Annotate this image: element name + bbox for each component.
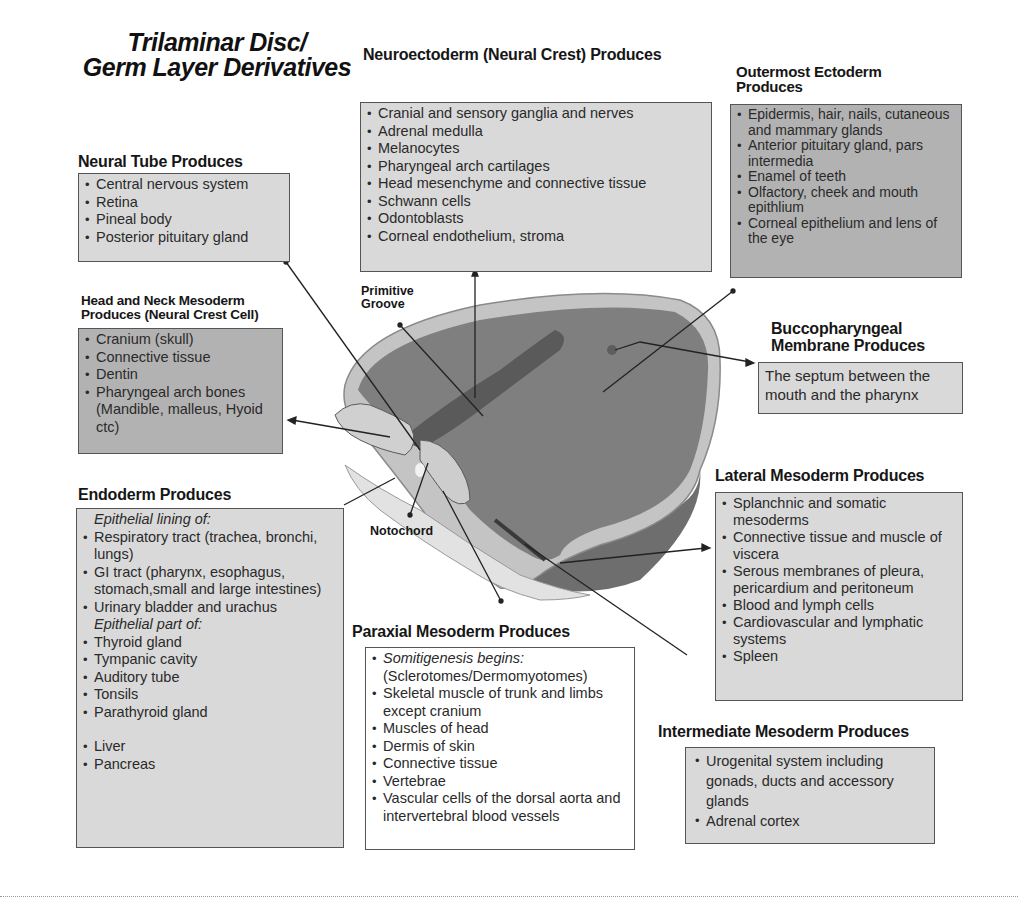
list-item: Connective tissue bbox=[371, 755, 630, 773]
list-item: Auditory tube bbox=[82, 669, 339, 687]
intermediate-mesoderm-box: Urogenital system including gonads, duct… bbox=[685, 747, 935, 844]
endoderm-box: Epithelial lining of: Respiratory tract … bbox=[76, 508, 344, 848]
list-item: Somitigenesis begins: (Sclerotomes/Dermo… bbox=[371, 650, 630, 685]
list-item: Tonsils bbox=[82, 686, 339, 704]
buccopharyngeal-heading-line2: Membrane Produces bbox=[771, 337, 925, 354]
list-item: Pineal body bbox=[84, 211, 285, 229]
endoderm-subheading-part: Epithelial part of: bbox=[82, 616, 339, 634]
buccopharyngeal-heading: Buccopharyngeal Membrane Produces bbox=[771, 320, 925, 354]
list-item: Retina bbox=[84, 194, 285, 212]
list-item: Central nervous system bbox=[84, 176, 285, 194]
outermost-ectoderm-box: Epidermis, hair, nails, cutaneous and ma… bbox=[730, 104, 962, 278]
endoderm-heading: Endoderm Produces bbox=[78, 486, 231, 503]
list-item: Urogenital system including gonads, duct… bbox=[694, 751, 926, 811]
list-item: Tympanic cavity bbox=[82, 651, 339, 669]
buccopharyngeal-box: The septum between the mouth and the pha… bbox=[758, 362, 963, 414]
list-item: Pharyngeal arch cartilages bbox=[366, 158, 707, 176]
list-item: Epidermis, hair, nails, cutaneous and ma… bbox=[736, 107, 959, 138]
neural-tube-box: Central nervous system Retina Pineal bod… bbox=[78, 173, 290, 262]
list-item: Odontoblasts bbox=[366, 210, 707, 228]
list-item: Pharyngeal arch bones (Mandible, malleus… bbox=[84, 384, 278, 437]
outermost-ectoderm-heading: Outermost Ectoderm Produces bbox=[736, 64, 882, 94]
paraxial-mesoderm-box: Somitigenesis begins: (Sclerotomes/Dermo… bbox=[365, 647, 635, 850]
list-item: Dermis of skin bbox=[371, 738, 630, 756]
neuroectoderm-heading: Neuroectoderm (Neural Crest) Produces bbox=[363, 46, 661, 63]
paraxial-mesoderm-heading: Paraxial Mesoderm Produces bbox=[352, 623, 570, 640]
list-item: Melanocytes bbox=[366, 140, 707, 158]
bottom-divider bbox=[0, 896, 1018, 897]
list-item: Posterior pituitary gland bbox=[84, 229, 285, 247]
list-item: Serous membranes of pleura, pericardium … bbox=[721, 563, 958, 597]
list-item: GI tract (pharynx, esophagus, stomach,sm… bbox=[82, 564, 339, 599]
list-item: Corneal epithelium and lens of the eye bbox=[736, 216, 959, 247]
buccopharyngeal-heading-line1: Buccopharyngeal bbox=[771, 320, 925, 337]
label-notochord: Notochord bbox=[370, 525, 433, 538]
list-item: Cranial and sensory ganglia and nerves bbox=[366, 105, 707, 123]
list-item: Liver bbox=[82, 738, 339, 756]
label-primitive-groove-line2: Groove bbox=[361, 298, 414, 311]
neuroectoderm-box: Cranial and sensory ganglia and nerves A… bbox=[360, 102, 712, 272]
list-item: Splanchnic and somatic mesoderms bbox=[721, 495, 958, 529]
somitigenesis-label: Somitigenesis begins: bbox=[383, 650, 524, 666]
outermost-ectoderm-heading-line1: Outermost Ectoderm bbox=[736, 64, 882, 79]
neural-tube-heading: Neural Tube Produces bbox=[78, 153, 243, 170]
list-item: Connective tissue and muscle of viscera bbox=[721, 529, 958, 563]
list-item: Thyroid gland bbox=[82, 634, 339, 652]
list-item: Blood and lymph cells bbox=[721, 597, 958, 614]
head-neck-heading-line2: Produces (Neural Crest Cell) bbox=[81, 308, 258, 322]
list-item: Pancreas bbox=[82, 756, 339, 774]
list-item: Urinary bladder and urachus bbox=[82, 599, 339, 617]
list-item: Cardiovascular and lymphatic systems bbox=[721, 614, 958, 648]
list-item: Respiratory tract (trachea, bronchi, lun… bbox=[82, 529, 339, 564]
list-item: Spleen bbox=[721, 648, 958, 665]
label-primitive-groove: Primitive Groove bbox=[361, 285, 414, 311]
head-neck-mesoderm-heading: Head and Neck Mesoderm Produces (Neural … bbox=[81, 294, 258, 322]
list-item: Connective tissue bbox=[84, 349, 278, 367]
list-item: Head mesenchyme and connective tissue bbox=[366, 175, 707, 193]
list-item: Dentin bbox=[84, 366, 278, 384]
head-neck-heading-line1: Head and Neck Mesoderm bbox=[81, 294, 258, 308]
list-item: Schwann cells bbox=[366, 193, 707, 211]
lateral-mesoderm-box: Splanchnic and somatic mesoderms Connect… bbox=[715, 492, 963, 701]
list-item: Skeletal muscle of trunk and limbs excep… bbox=[371, 685, 630, 720]
somitigenesis-detail: (Sclerotomes/Dermomyotomes) bbox=[383, 668, 588, 684]
list-item: Enamel of teeth bbox=[736, 169, 959, 185]
outermost-ectoderm-heading-line2: Produces bbox=[736, 79, 882, 94]
list-item: Cranium (skull) bbox=[84, 331, 278, 349]
list-item: Adrenal cortex bbox=[694, 811, 926, 831]
list-item: Anterior pituitary gland, pars intermedi… bbox=[736, 138, 959, 169]
spacer bbox=[82, 721, 339, 738]
buccopharyngeal-text: The septum between the mouth and the pha… bbox=[765, 366, 956, 404]
head-neck-mesoderm-box: Cranium (skull) Connective tissue Dentin… bbox=[78, 328, 283, 454]
intermediate-mesoderm-heading: Intermediate Mesoderm Produces bbox=[658, 723, 909, 740]
list-item: Parathyroid gland bbox=[82, 704, 339, 722]
lateral-mesoderm-heading: Lateral Mesoderm Produces bbox=[715, 467, 924, 484]
list-item: Muscles of head bbox=[371, 720, 630, 738]
list-item: Vertebrae bbox=[371, 773, 630, 791]
list-item: Corneal endothelium, stroma bbox=[366, 228, 707, 246]
list-item: Olfactory, cheek and mouth epithlium bbox=[736, 185, 959, 216]
list-item: Vascular cells of the dorsal aorta and i… bbox=[371, 790, 630, 825]
list-item: Adrenal medulla bbox=[366, 123, 707, 141]
endoderm-subheading-lining: Epithelial lining of: bbox=[82, 511, 339, 529]
